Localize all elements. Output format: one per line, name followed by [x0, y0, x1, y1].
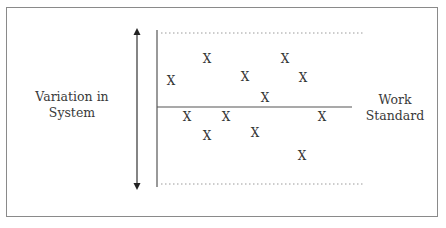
x-marker: X [165, 75, 177, 87]
x-marker: X [249, 127, 261, 139]
variation-label: Variation in System [24, 89, 120, 121]
x-marker: X [220, 111, 232, 123]
x-marker: X [296, 150, 308, 162]
x-marker: X [259, 92, 271, 104]
variation-label-line1: Variation in [24, 89, 120, 105]
x-marker: X [279, 53, 291, 65]
variation-label-line2: System [24, 105, 120, 121]
work-standard-label: Work Standard [360, 92, 430, 124]
arrow-up-icon [134, 28, 141, 35]
x-marker: X [201, 53, 213, 65]
x-marker: X [201, 130, 213, 142]
x-marker: X [297, 72, 309, 84]
x-marker: X [239, 71, 251, 83]
arrow-down-icon [134, 183, 141, 190]
x-marker: X [181, 111, 193, 123]
x-marker: X [316, 111, 328, 123]
work-standard-label-line2: Standard [360, 108, 430, 124]
work-standard-label-line1: Work [360, 92, 430, 108]
variation-arrow [134, 28, 141, 190]
